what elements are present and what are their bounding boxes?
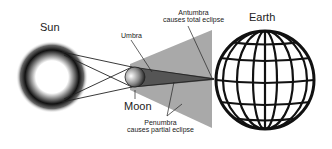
- antumbra-label-desc: causes total eclipse: [163, 16, 224, 23]
- sun-icon: [16, 41, 88, 113]
- antumbra-label-title: Antumbra: [163, 9, 224, 16]
- earth-globe-icon: [216, 31, 314, 129]
- moon-label: Moon: [124, 101, 152, 113]
- umbra-label: Umbra: [121, 32, 142, 39]
- penumbra-label-desc: causes partial eclipse: [127, 126, 194, 133]
- sun-label: Sun: [40, 22, 60, 34]
- antumbra-label: Antumbra causes total eclipse: [163, 9, 224, 24]
- earth-label: Earth: [249, 12, 275, 24]
- penumbra-label: Penumbra causes partial eclipse: [127, 119, 194, 134]
- penumbra-label-title: Penumbra: [127, 119, 194, 126]
- moon-icon: [125, 67, 145, 87]
